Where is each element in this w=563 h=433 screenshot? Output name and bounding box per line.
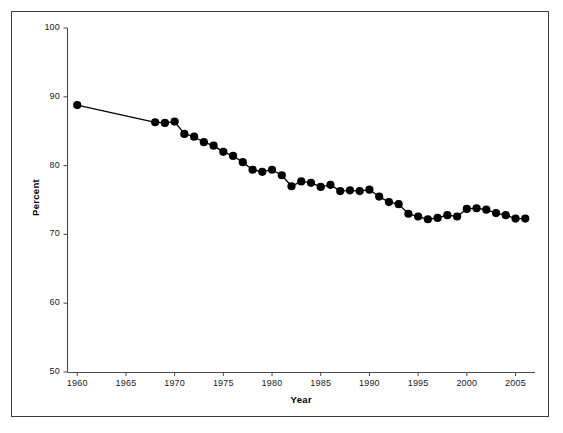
data-point-marker bbox=[521, 214, 529, 222]
x-tick-label: 2005 bbox=[494, 378, 538, 388]
data-point-marker bbox=[209, 142, 217, 150]
y-tick-label: 70 bbox=[28, 228, 60, 238]
data-point-marker bbox=[404, 210, 412, 218]
data-point-marker bbox=[375, 192, 383, 200]
data-point-marker bbox=[414, 212, 422, 220]
data-point-marker bbox=[190, 133, 198, 141]
data-point-marker bbox=[356, 187, 364, 195]
data-point-marker bbox=[482, 206, 490, 214]
data-point-marker bbox=[346, 186, 354, 194]
data-point-marker bbox=[268, 166, 276, 174]
series-line bbox=[77, 105, 525, 219]
line-chart-plot bbox=[0, 0, 563, 433]
data-point-marker bbox=[492, 209, 500, 217]
data-point-marker bbox=[434, 214, 442, 222]
x-tick-label: 2000 bbox=[445, 378, 489, 388]
y-tick-label: 50 bbox=[28, 366, 60, 376]
x-tick-label: 1985 bbox=[299, 378, 343, 388]
data-point-marker bbox=[326, 181, 334, 189]
data-point-marker bbox=[287, 182, 295, 190]
data-point-marker bbox=[200, 138, 208, 146]
data-point-marker bbox=[180, 130, 188, 138]
y-tick-label: 90 bbox=[28, 91, 60, 101]
data-point-marker bbox=[278, 171, 286, 179]
data-point-marker bbox=[472, 204, 480, 212]
data-point-marker bbox=[219, 148, 227, 156]
data-point-marker bbox=[248, 166, 256, 174]
data-point-marker bbox=[297, 177, 305, 185]
data-point-marker bbox=[258, 168, 266, 176]
chart-figure: 5060708090100 19601965197019751980198519… bbox=[0, 0, 563, 433]
data-point-marker bbox=[502, 211, 510, 219]
data-point-marker bbox=[395, 200, 403, 208]
data-point-marker bbox=[424, 215, 432, 223]
data-point-marker bbox=[239, 158, 247, 166]
axis-lines bbox=[64, 28, 536, 376]
x-tick-label: 1960 bbox=[55, 378, 99, 388]
data-point-marker bbox=[511, 214, 519, 222]
y-tick-label: 100 bbox=[28, 22, 60, 32]
data-point-marker bbox=[161, 119, 169, 127]
y-axis-title: Percent bbox=[30, 168, 41, 228]
x-tick-label: 1965 bbox=[104, 378, 148, 388]
data-point-marker bbox=[365, 186, 373, 194]
x-tick-label: 1980 bbox=[250, 378, 294, 388]
x-tick-label: 1970 bbox=[153, 378, 197, 388]
series-polyline bbox=[77, 105, 525, 219]
data-point-marker bbox=[229, 152, 237, 160]
data-point-marker bbox=[336, 187, 344, 195]
data-point-marker bbox=[171, 117, 179, 125]
x-tick-label: 1995 bbox=[396, 378, 440, 388]
data-point-marker bbox=[307, 179, 315, 187]
data-point-marker bbox=[385, 198, 393, 206]
x-tick-label: 1990 bbox=[347, 378, 391, 388]
data-point-marker bbox=[151, 118, 159, 126]
data-point-marker bbox=[317, 183, 325, 191]
y-tick-label: 60 bbox=[28, 297, 60, 307]
data-point-marker bbox=[443, 211, 451, 219]
data-point-marker bbox=[463, 205, 471, 213]
x-tick-label: 1975 bbox=[201, 378, 245, 388]
x-axis-title: Year bbox=[261, 394, 341, 405]
data-point-marker bbox=[453, 212, 461, 220]
data-point-marker bbox=[73, 101, 81, 109]
